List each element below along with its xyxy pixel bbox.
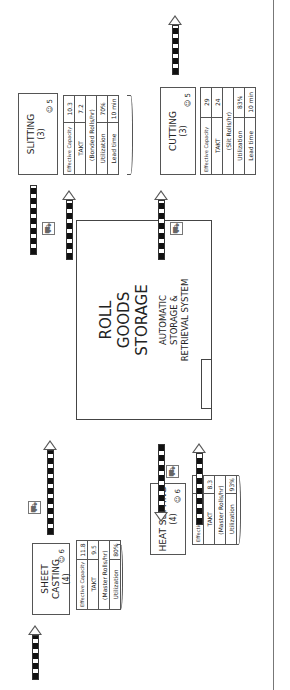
storage-title: ROLL GOODS STORAGE [97,221,151,419]
push-arrow-icon [30,185,37,255]
process-title: CUTTING [168,88,179,174]
arrow-head-icon [192,443,206,453]
process-box-slitting: SLITTING (3) ☺ 5 [18,93,58,175]
operator-icon: ☺ [184,100,192,107]
push-arrow-icon [172,25,179,75]
process-title: SLITTING [26,94,37,174]
data-box-bottom [127,95,133,175]
push-arrow-icon [47,450,54,535]
value-stream-map: SHEET CASTING (4) ☺ 6 Effective Capacity… [0,0,290,690]
arrow-head-icon [168,15,182,25]
retrieval-slot [201,359,211,409]
operator-icon: ☺ [46,106,54,113]
operator-count: ☺ 5 [184,93,192,107]
data-table-cutting: Effective Capacity29 TAKT24 (Slit Rolls/… [200,87,256,175]
arrow-head-icon [154,512,168,522]
arrow-head-icon [62,190,76,200]
push-arrow-icon [196,453,203,525]
data-table-sheet-casting: Effective Capacity11.8 TAKT9.5 (Master R… [76,540,121,610]
operator-count: ☺ 6 [58,549,66,563]
data-box-bottom [117,544,123,610]
push-arrow-icon [158,444,165,512]
roll-goods-storage: ROLL GOODS STORAGE AUTOMATIC STORAGE & R… [76,220,212,420]
arrow-head-icon [28,625,42,635]
push-arrow-icon [66,200,73,260]
forklift-icon: ⛟ [42,222,55,235]
process-box-cutting: CUTTING (3) ☺ 5 [160,87,196,175]
arrow-head-icon [43,440,57,450]
push-arrow-icon [32,635,39,680]
push-arrow-icon [158,200,165,260]
process-box-sheet-casting: SHEET CASTING (4) ☺ 6 [32,543,70,615]
data-box-bottom [235,475,241,545]
operator-icon: ☺ [174,496,182,503]
forklift-icon: ⛟ [28,501,41,514]
data-table-slitting: Effective Capacity10.3 TAKT7.2 (Bonded R… [63,95,119,175]
divider-line [273,0,274,690]
operator-count: ☺ 6 [174,489,182,503]
operator-icon: ☺ [58,556,66,563]
forklift-icon: ⛟ [170,222,183,235]
operator-count: ☺ 5 [46,99,54,113]
arrow-head-icon [154,190,168,200]
forklift-icon: ⛟ [166,465,179,478]
